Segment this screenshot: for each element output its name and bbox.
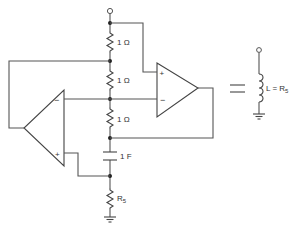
equals-sign (230, 85, 245, 92)
inductor-label: L = R5 (266, 84, 289, 94)
capacitor-c1-label: 1 F (120, 152, 132, 161)
resistor-r1-label: 1 Ω (117, 38, 130, 47)
resistor-r3: 1 Ω (107, 107, 130, 129)
resistor-r5: R5 (107, 188, 127, 209)
resistor-r2: 1 Ω (107, 69, 130, 91)
inductor-ground-icon (253, 114, 265, 119)
opamp-right: + − (157, 63, 198, 117)
resistor-r2-label: 1 Ω (117, 76, 130, 85)
ground-icon (104, 217, 116, 222)
resistor-r1: 1 Ω (107, 31, 130, 53)
resistor-r3-label: 1 Ω (117, 115, 130, 124)
opamp-right-plus: + (160, 69, 165, 78)
opamp-left-plus: + (55, 150, 60, 159)
opamp-left: − + (24, 90, 64, 166)
opamp-left-minus: − (54, 95, 59, 105)
input-terminal (107, 8, 112, 23)
resistor-r5-label: R5 (117, 194, 127, 204)
gyrator-circuit-diagram: 1 Ω 1 Ω 1 Ω 1 F R5 + − (0, 0, 298, 228)
capacitor-c1: 1 F (103, 152, 132, 161)
equivalent-inductor: L = R5 (257, 48, 289, 114)
opamp-right-minus: − (160, 95, 165, 105)
